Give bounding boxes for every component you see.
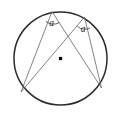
angle-label-left: a xyxy=(49,18,54,28)
angle-label-right: a xyxy=(81,24,86,34)
geometry-figure: a a xyxy=(0,0,124,119)
chord-left-vertex-to-left-end xyxy=(21,12,52,92)
chord-right-vertex-to-left-end xyxy=(21,17,85,92)
center-dot-marker xyxy=(59,57,62,60)
chord-left-vertex-to-right-end xyxy=(52,12,102,88)
circle-diagram-canvas: a a xyxy=(0,0,124,119)
chord-right-vertex-to-right-end xyxy=(85,17,102,88)
